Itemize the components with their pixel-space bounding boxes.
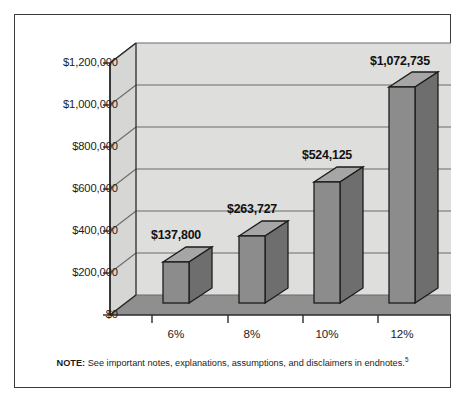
- chart-plot-area: $1,200,000 $1,000,000 $800,000 $600,000 …: [0, 0, 465, 404]
- footnote-text: See important notes, explanations, assum…: [88, 358, 405, 368]
- chart-footnote: NOTE: See important notes, explanations,…: [14, 356, 451, 368]
- footnote-label: NOTE:: [57, 358, 86, 368]
- bar-label-8-percent: $263,727: [211, 202, 293, 216]
- bar-label-6-percent: $137,800: [135, 228, 217, 242]
- bar-label-10-percent: $524,125: [286, 148, 368, 162]
- bar-label-12-percent: $1,072,735: [348, 54, 452, 68]
- footnote-superscript: 5: [405, 356, 409, 363]
- chart-figure: $1,200,000 $1,000,000 $800,000 $600,000 …: [0, 0, 465, 404]
- bar-value-labels: $137,800 $263,727 $524,125 $1,072,735: [0, 0, 465, 404]
